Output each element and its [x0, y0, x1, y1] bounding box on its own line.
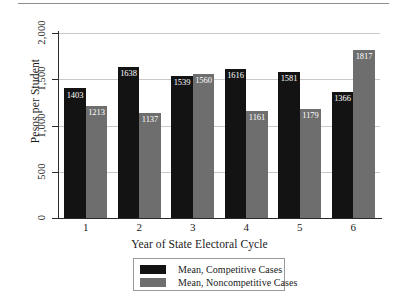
- bar-value-label: 1539: [171, 77, 193, 87]
- bar-value-label: 1638: [118, 68, 140, 78]
- bar: 1638: [118, 67, 140, 219]
- bar-value-label: 1817: [353, 51, 375, 61]
- x-axis-tick-label: 6: [333, 221, 373, 233]
- chart-legend: Mean, Competitive CasesMean, Noncompetit…: [133, 258, 285, 291]
- y-axis-tick-mark: [52, 126, 59, 127]
- bar-value-label: 1560: [193, 75, 215, 85]
- legend-swatch: [140, 265, 166, 274]
- x-axis-tick-label: 2: [119, 221, 159, 233]
- bar-value-label: 1366: [332, 93, 354, 103]
- bar-value-label: 1213: [86, 107, 108, 117]
- bar-value-label: 1137: [139, 114, 161, 124]
- legend-entry: Mean, Noncompetitive Cases: [140, 276, 297, 289]
- x-axis-tick-label: 1: [66, 221, 106, 233]
- bar-value-label: 1581: [278, 73, 300, 83]
- bar-chart-figure: Pesos per Student 1403121316381137153915…: [0, 0, 399, 304]
- bar: 1616: [225, 69, 247, 218]
- x-axis-tick-label: 3: [173, 221, 213, 233]
- y-axis-tick-label: 2,000: [36, 5, 47, 61]
- y-axis-tick-mark: [52, 79, 59, 80]
- x-axis-line: [56, 218, 382, 220]
- bar-value-label: 1179: [300, 110, 322, 120]
- bar: 1403: [64, 88, 86, 218]
- legend-label: Mean, Noncompetitive Cases: [178, 277, 297, 288]
- top-horizontal-rule: [18, 3, 389, 4]
- legend-entry: Mean, Competitive Cases: [140, 263, 282, 276]
- x-axis-tick-label: 5: [280, 221, 320, 233]
- y-axis-tick-mark: [52, 33, 59, 34]
- bar-value-label: 1161: [246, 112, 268, 122]
- bar: 1539: [171, 76, 193, 218]
- bar: 1817: [353, 50, 375, 218]
- gridline: [59, 79, 380, 80]
- bar: 1560: [193, 74, 215, 218]
- bar: 1366: [332, 92, 354, 218]
- bar: 1179: [300, 109, 322, 218]
- legend-swatch: [140, 278, 166, 287]
- legend-label: Mean, Competitive Cases: [178, 264, 282, 275]
- bar-value-label: 1403: [64, 90, 86, 100]
- bar: 1137: [139, 113, 161, 218]
- bar: 1161: [246, 111, 268, 218]
- x-axis-title: Year of State Electoral Cycle: [0, 238, 399, 250]
- y-axis-tick-mark: [52, 172, 59, 173]
- bar: 1213: [86, 106, 108, 218]
- plot-area: 1403121316381137153915601616116115811179…: [59, 33, 380, 218]
- bar: 1581: [278, 72, 300, 218]
- y-axis-tick-mark: [52, 218, 59, 219]
- x-axis-tick-label: 4: [226, 221, 266, 233]
- gridline: [59, 33, 380, 34]
- bar-value-label: 1616: [225, 70, 247, 80]
